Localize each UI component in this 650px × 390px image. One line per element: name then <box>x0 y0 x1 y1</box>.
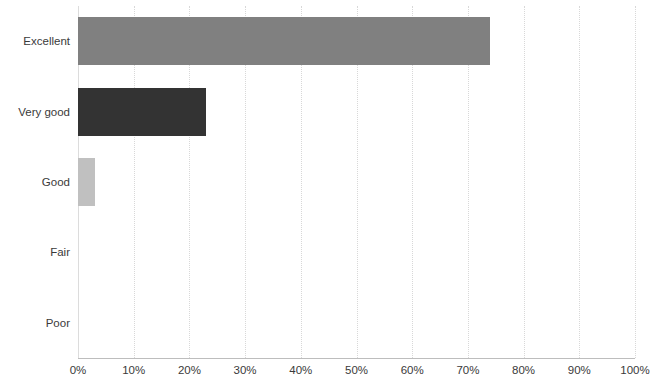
bar-row <box>0 288 650 358</box>
x-axis-tick-label: 90% <box>568 364 591 376</box>
x-axis-tick-label: 30% <box>234 364 257 376</box>
y-axis-label: Poor <box>0 288 70 358</box>
bar-good[interactable] <box>78 158 95 206</box>
y-axis-label: Fair <box>0 217 70 287</box>
x-axis-tick-label: 40% <box>289 364 312 376</box>
bar-row <box>0 147 650 217</box>
y-axis-label: Very good <box>0 76 70 146</box>
y-axis-label: Good <box>0 147 70 217</box>
bar-row <box>0 217 650 287</box>
bar-series <box>0 0 650 390</box>
x-axis-tick-labels: 0%10%20%30%40%50%60%70%80%90%100% <box>0 364 650 384</box>
x-axis-tick-label: 50% <box>345 364 368 376</box>
y-axis-label: Excellent <box>0 6 70 76</box>
y-axis-labels: ExcellentVery goodGoodFairPoor <box>0 6 70 358</box>
bar-row <box>0 76 650 146</box>
x-axis-tick-label: 60% <box>401 364 424 376</box>
x-axis-tick-label: 70% <box>456 364 479 376</box>
bar-row <box>0 6 650 76</box>
x-axis-tick-label: 80% <box>512 364 535 376</box>
bar-chart: ExcellentVery goodGoodFairPoor 0%10%20%3… <box>0 0 650 390</box>
bar-very-good[interactable] <box>78 88 206 136</box>
x-axis-tick-label: 10% <box>122 364 145 376</box>
bar-excellent[interactable] <box>78 17 490 65</box>
x-axis-tick-label: 0% <box>70 364 87 376</box>
x-axis-tick-label: 100% <box>620 364 649 376</box>
x-axis-tick-label: 20% <box>178 364 201 376</box>
